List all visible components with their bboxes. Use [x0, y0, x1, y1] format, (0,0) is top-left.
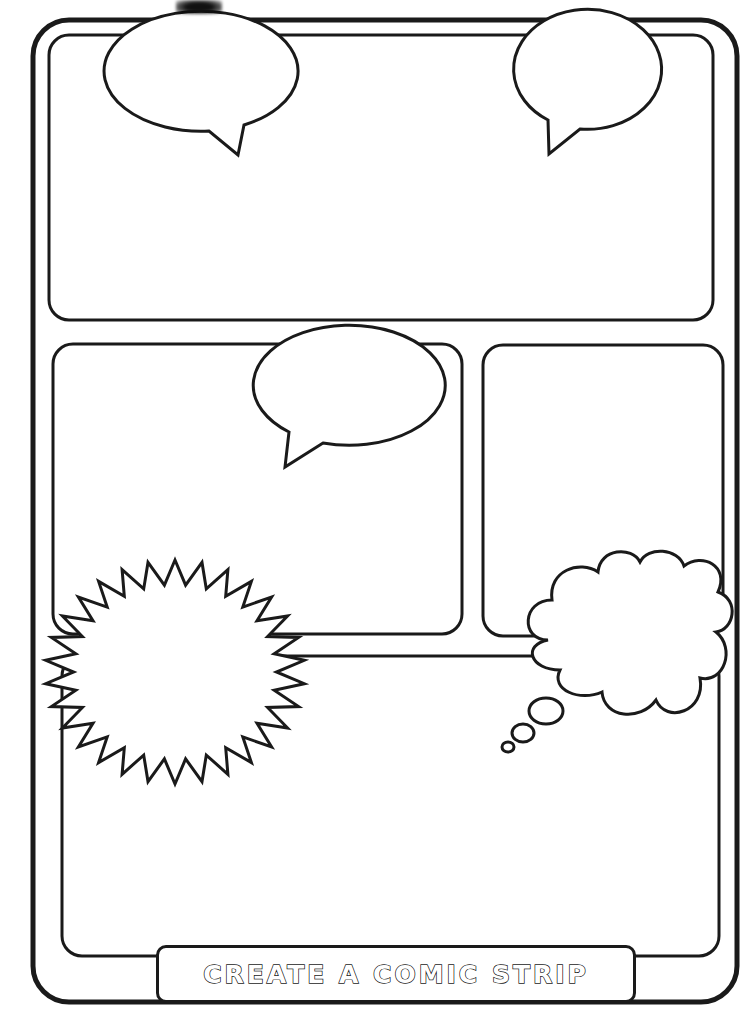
thought-bubble-large [529, 698, 563, 724]
outer-frame [33, 20, 737, 1002]
burst-balloon[interactable] [46, 560, 305, 784]
page-title: CREATE A COMIC STRIP [203, 960, 589, 989]
thought-bubble-medium [512, 724, 534, 742]
title-banner: CREATE A COMIC STRIP [156, 945, 636, 1003]
scan-smudge [176, 0, 222, 14]
comic-strip-worksheet: CREATE A COMIC STRIP [0, 0, 752, 1034]
speech-balloon-top-left[interactable] [104, 11, 298, 155]
speech-balloon-top-right[interactable] [514, 9, 662, 154]
thought-bubble-small [502, 742, 514, 752]
speech-balloon-middle[interactable] [253, 325, 445, 467]
comic-frame-art [0, 0, 752, 1034]
thought-cloud[interactable] [502, 551, 732, 752]
